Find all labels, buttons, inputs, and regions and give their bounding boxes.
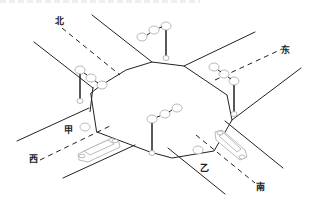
direction-label-east: 东 — [281, 46, 290, 55]
vehicle-label-a: 甲 — [64, 126, 73, 135]
west-road-top-edge — [17, 108, 89, 141]
direction-label-south: 南 — [256, 183, 265, 192]
intersection-diagram — [0, 0, 312, 208]
car-icon — [78, 123, 120, 162]
east-road-bottom-edge — [232, 68, 301, 120]
north-center-line — [62, 28, 120, 75]
traffic-light-icon — [147, 104, 182, 156]
car-icon — [193, 130, 247, 160]
pedestrian-marker — [80, 123, 90, 131]
direction-label-north: 北 — [55, 17, 64, 26]
east-road-top-edge — [184, 32, 255, 66]
pedestrian-marker — [193, 146, 203, 154]
north-road-left-edge — [34, 42, 93, 88]
traffic-light-icon — [75, 66, 107, 112]
direction-label-west: 西 — [29, 155, 38, 164]
vehicle-label-b: 乙 — [200, 164, 209, 173]
south-road-left-edge — [168, 148, 225, 194]
